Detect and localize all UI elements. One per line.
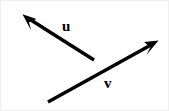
vector-label-u: u xyxy=(62,19,70,34)
vector-u xyxy=(23,14,95,60)
vector-v-shaft xyxy=(48,46,150,102)
vector-label-v: v xyxy=(104,76,112,91)
vector-diagram-canvas: u v xyxy=(0,0,169,111)
vector-diagram-svg xyxy=(1,1,169,111)
vector-v xyxy=(48,40,159,102)
